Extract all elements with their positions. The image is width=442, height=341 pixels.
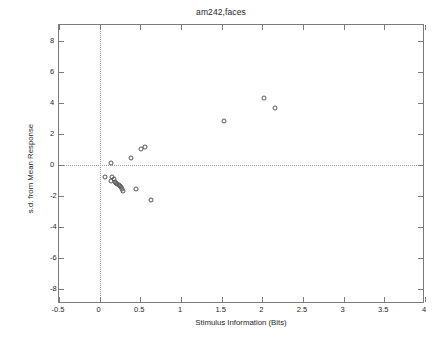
y-tick-label: 8 [50,35,54,44]
y-tick-mark [59,227,64,228]
horizontal-reference-line [59,165,423,166]
x-tick-label: 0 [97,305,101,314]
x-tick-mark [181,297,182,302]
y-tick-label: 6 [50,66,54,75]
y-tick-label: 4 [50,97,54,106]
x-tick-mark [425,25,426,30]
x-tick-mark [140,297,141,302]
x-tick-mark [222,297,223,302]
y-tick-mark [59,134,64,135]
x-tick-mark [262,297,263,302]
y-tick-label: -6 [50,252,57,261]
data-point [108,160,113,165]
x-tick-mark [222,25,223,30]
x-axis-title: Stimulus Information (Bits) [58,318,424,327]
figure: am242,faces Stimulus Information (Bits) … [0,0,442,341]
x-tick-mark [425,297,426,302]
y-tick-mark [59,165,64,166]
x-tick-mark [100,25,101,30]
y-tick-mark [418,289,423,290]
y-tick-mark [418,41,423,42]
x-tick-mark [344,297,345,302]
y-tick-label: -2 [50,190,57,199]
x-tick-mark [384,25,385,30]
chart-title: am242,faces [0,7,442,17]
x-tick-mark [100,297,101,302]
y-tick-mark [59,258,64,259]
x-tick-label: 0.5 [134,305,144,314]
x-tick-mark [344,25,345,30]
x-tick-label: 1.5 [215,305,225,314]
x-tick-mark [59,25,60,30]
y-tick-mark [418,258,423,259]
x-tick-label: 2 [259,305,263,314]
data-point [134,186,139,191]
x-tick-label: 1 [178,305,182,314]
data-point [149,197,154,202]
y-tick-label: 0 [50,159,54,168]
x-tick-label: 4 [422,305,426,314]
x-tick-mark [303,297,304,302]
plot-area [58,24,424,303]
y-tick-mark [59,103,64,104]
data-point [128,155,133,160]
data-point [143,145,148,150]
data-point [102,174,107,179]
y-axis-title: s.d. from Mean Response [26,59,35,279]
y-tick-label: -4 [50,221,57,230]
x-tick-label: 3.5 [378,305,388,314]
x-tick-mark [262,25,263,30]
y-tick-mark [418,165,423,166]
x-tick-mark [140,25,141,30]
y-tick-mark [418,72,423,73]
x-tick-mark [384,297,385,302]
y-tick-mark [418,103,423,104]
x-tick-label: 3 [341,305,345,314]
y-tick-mark [59,289,64,290]
data-point [120,188,125,193]
data-point [221,118,226,123]
y-tick-label: -8 [50,283,57,292]
data-point [272,105,277,110]
y-tick-mark [418,227,423,228]
y-tick-label: 2 [50,128,54,137]
x-tick-label: 2.5 [297,305,307,314]
y-tick-mark [59,41,64,42]
data-point [261,96,266,101]
x-tick-mark [303,25,304,30]
y-tick-mark [418,134,423,135]
vertical-reference-line [100,25,101,302]
x-tick-label: -0.5 [52,305,65,314]
x-tick-mark [181,25,182,30]
y-tick-mark [59,72,64,73]
y-tick-mark [418,196,423,197]
y-tick-mark [59,196,64,197]
x-tick-mark [59,297,60,302]
